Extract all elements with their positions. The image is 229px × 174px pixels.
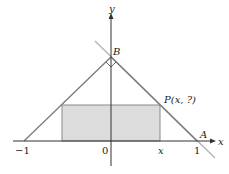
x-axis-label: x bbox=[218, 136, 224, 147]
tick-label-origin: 0 bbox=[102, 145, 108, 156]
diagram-canvas: y x B A P(x, ?) −1 0 x 1 bbox=[0, 0, 229, 174]
y-axis-label: y bbox=[108, 3, 115, 14]
point-B-label: B bbox=[112, 46, 120, 57]
tick-label-x: x bbox=[158, 145, 164, 156]
x-axis-arrow-icon bbox=[210, 139, 216, 144]
point-P-label: P(x, ?) bbox=[163, 94, 196, 105]
tick-label-neg1: −1 bbox=[15, 145, 30, 156]
tick-label-1: 1 bbox=[194, 145, 200, 156]
point-A-label: A bbox=[199, 129, 207, 140]
